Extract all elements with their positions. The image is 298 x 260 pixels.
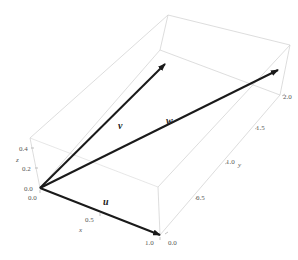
bounding-box — [30, 15, 290, 235]
vector-u — [40, 188, 160, 235]
vector-u-label: u — [103, 196, 109, 207]
vector-w — [40, 70, 278, 188]
y-tick-1.5: 1.5 — [256, 124, 265, 132]
z-axis-label: z — [15, 156, 19, 164]
vector-v — [40, 64, 165, 188]
y-axis-label: y — [237, 161, 242, 169]
x-axis-label: x — [78, 226, 83, 234]
y-tick-1.0: 1.0 — [226, 158, 235, 166]
y-tick-0.0: 0.0 — [168, 239, 177, 247]
x-tick-1.0: 1.0 — [145, 239, 154, 247]
z-tick-0.0: 0.0 — [24, 185, 33, 193]
x-tick-0.5: 0.5 — [85, 216, 94, 224]
vector-plot-3d: u v w 0.4 0.2 0.0 z 0.0 0.5 1.0 x 0.0 0.… — [0, 0, 298, 260]
vector-w-label: w — [166, 115, 173, 126]
z-tick-0.4: 0.4 — [19, 145, 28, 153]
vector-v-label: v — [118, 120, 123, 131]
z-tick-0.2: 0.2 — [22, 165, 31, 173]
y-tick-0.5: 0.5 — [196, 194, 205, 202]
x-tick-0.0: 0.0 — [28, 194, 37, 202]
axis-ticks — [31, 94, 285, 240]
y-tick-2.0: 2.0 — [283, 93, 292, 101]
